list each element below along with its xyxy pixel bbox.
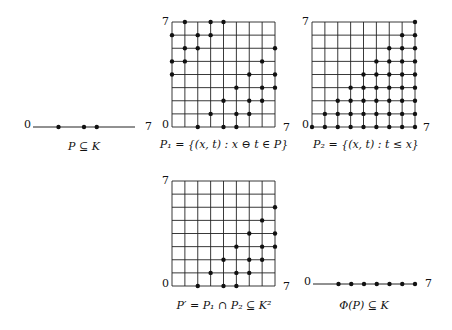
point-marker <box>400 72 404 76</box>
point-marker <box>234 85 238 89</box>
point-marker <box>374 85 378 89</box>
point-marker <box>234 284 238 288</box>
point-marker <box>374 59 378 63</box>
point-marker <box>273 46 277 50</box>
origin-label: 0 <box>162 118 169 131</box>
point-marker <box>208 33 212 37</box>
point-marker <box>56 125 60 129</box>
point-marker <box>260 99 264 103</box>
point-marker <box>413 99 417 103</box>
point-marker <box>208 112 212 116</box>
axis-x-max-label: 7 <box>423 121 430 134</box>
origin-label: 0 <box>302 118 309 131</box>
point-marker <box>273 85 277 89</box>
point-marker <box>82 125 86 129</box>
point-marker <box>208 271 212 275</box>
panel-P2-grid: 707P₂ = {(x, t) : t ≤ x} <box>302 15 430 151</box>
point-marker <box>170 33 174 37</box>
point-marker <box>374 125 378 129</box>
point-marker <box>183 46 187 50</box>
point-marker <box>374 72 378 76</box>
point-marker <box>336 282 340 286</box>
point-marker <box>374 112 378 116</box>
axis-min-label: 0 <box>304 275 311 288</box>
origin-label: 0 <box>162 277 169 290</box>
point-marker <box>400 112 404 116</box>
point-marker <box>348 85 352 89</box>
point-marker <box>95 125 99 129</box>
point-marker <box>260 85 264 89</box>
point-marker <box>170 72 174 76</box>
point-marker <box>413 85 417 89</box>
point-marker <box>348 112 352 116</box>
point-marker <box>413 59 417 63</box>
point-marker <box>374 99 378 103</box>
axis-max-label: 7 <box>425 277 432 290</box>
point-marker <box>375 282 379 286</box>
point-marker <box>413 282 417 286</box>
point-marker <box>221 125 225 129</box>
axis-max-label: 7 <box>145 120 152 133</box>
point-marker <box>247 112 251 116</box>
point-marker <box>348 99 352 103</box>
caption: Φ(P) ⊆ K <box>339 299 389 312</box>
point-marker <box>234 271 238 275</box>
axis-t-max-label: 7 <box>162 15 169 28</box>
point-marker <box>273 72 277 76</box>
point-marker <box>196 46 200 50</box>
point-marker <box>361 72 365 76</box>
point-marker <box>221 258 225 262</box>
point-marker <box>400 59 404 63</box>
caption: P ⊆ K <box>67 140 101 153</box>
panel-Phi-P-line: 07Φ(P) ⊆ K <box>304 275 432 312</box>
point-marker <box>260 244 264 248</box>
point-marker <box>260 218 264 222</box>
point-marker <box>273 244 277 248</box>
point-marker <box>387 125 391 129</box>
point-marker <box>400 125 404 129</box>
point-marker <box>387 72 391 76</box>
point-marker <box>361 99 365 103</box>
point-marker <box>273 205 277 209</box>
point-marker <box>400 85 404 89</box>
point-marker <box>400 33 404 37</box>
panel-Pprime-grid: 707P′ = P₁ ∩ P₂ ⊆ K² <box>162 174 290 312</box>
point-marker <box>260 258 264 262</box>
point-marker <box>336 99 340 103</box>
point-marker <box>361 112 365 116</box>
point-marker <box>413 112 417 116</box>
point-marker <box>413 72 417 76</box>
point-marker <box>362 282 366 286</box>
panel-P-subset-K: 07P ⊆ K <box>24 118 152 153</box>
point-marker <box>336 125 340 129</box>
point-marker <box>361 85 365 89</box>
point-marker <box>247 271 251 275</box>
point-marker <box>196 284 200 288</box>
axis-x-max-label: 7 <box>283 280 290 293</box>
point-marker <box>196 125 200 129</box>
point-marker <box>183 20 187 24</box>
point-marker <box>273 231 277 235</box>
point-marker <box>349 282 353 286</box>
point-marker <box>400 282 404 286</box>
panel-P1-grid: 707P₁ = {(x, t) : x ⊖ t ∈ P} <box>159 15 290 151</box>
point-marker <box>413 20 417 24</box>
caption: P′ = P₁ ∩ P₂ ⊆ K² <box>176 299 272 312</box>
point-marker <box>413 33 417 37</box>
point-marker <box>387 112 391 116</box>
point-marker <box>323 112 327 116</box>
point-marker <box>170 59 174 63</box>
axis-t-max-label: 7 <box>162 174 169 187</box>
point-marker <box>234 125 238 129</box>
point-marker <box>387 59 391 63</box>
caption: P₂ = {(x, t) : t ≤ x} <box>312 138 419 151</box>
point-marker <box>234 244 238 248</box>
point-marker <box>387 99 391 103</box>
point-marker <box>247 258 251 262</box>
point-marker <box>221 99 225 103</box>
axis-t-max-label: 7 <box>302 15 309 28</box>
point-marker <box>196 33 200 37</box>
diagram-canvas: 07P ⊆ K 707P₁ = {(x, t) : x ⊖ t ∈ P} 707… <box>0 0 452 330</box>
point-marker <box>387 46 391 50</box>
point-marker <box>413 125 417 129</box>
